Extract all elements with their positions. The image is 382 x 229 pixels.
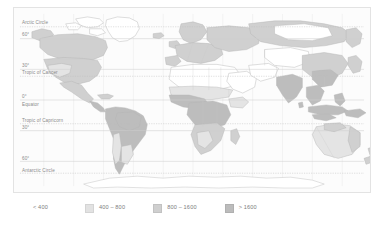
map-canvas: .c0{fill:#ffffff;} .c1{fill:#e4e4e4;} .c… bbox=[13, 7, 371, 193]
legend-item-over-1600[interactable]: > 1600 bbox=[225, 204, 257, 213]
legend-label-under-400: < 400 bbox=[33, 205, 48, 211]
lat-label-antarctic-circle: Antarctic Circle bbox=[22, 169, 55, 174]
lat-label-zero-degrees: 0° bbox=[22, 95, 27, 100]
lat-label-tropic-of-cancer: Tropic of Cancer bbox=[22, 71, 58, 76]
lat-label-30-north: 30° bbox=[22, 64, 29, 69]
legend-item-under-400[interactable]: < 400 bbox=[33, 204, 48, 213]
lat-label-tropic-of-capricorn: Tropic of Capricorn bbox=[22, 119, 63, 124]
legend-label-800-1600: 800 – 1600 bbox=[167, 205, 197, 211]
legend-item-400-800[interactable]: 400 – 800 bbox=[85, 204, 125, 213]
lat-label-60-north: 60° bbox=[22, 33, 29, 38]
lat-label-equator: Equator bbox=[22, 103, 39, 108]
lat-label-60-south: 60° bbox=[22, 157, 29, 162]
legend-swatch-400-800 bbox=[85, 204, 94, 213]
lat-label-30-south: 30° bbox=[22, 126, 29, 131]
legend-label-over-1600: > 1600 bbox=[239, 205, 257, 211]
legend-item-800-1600[interactable]: 800 – 1600 bbox=[153, 204, 197, 213]
legend-swatch-800-1600 bbox=[153, 204, 162, 213]
precipitation-legend: < 400 400 – 800 800 – 1600 > 1600 bbox=[13, 198, 371, 218]
legend-label-400-800: 400 – 800 bbox=[99, 205, 125, 211]
world-map-figure: .c0{fill:#ffffff;} .c1{fill:#e4e4e4;} .c… bbox=[0, 0, 382, 229]
lat-label-arctic-circle: Arctic Circle bbox=[22, 21, 48, 26]
legend-swatch-over-1600 bbox=[225, 204, 234, 213]
map-graphic: .c0{fill:#ffffff;} .c1{fill:#e4e4e4;} .c… bbox=[14, 8, 370, 192]
